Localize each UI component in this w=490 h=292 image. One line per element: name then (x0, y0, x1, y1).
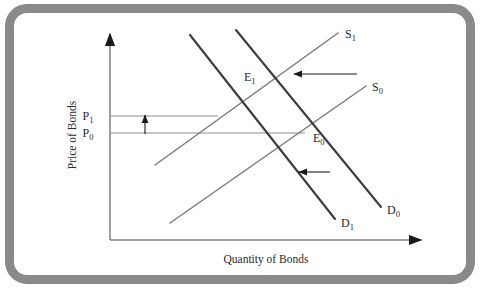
equilibrium-label-e1: E1 (244, 70, 256, 86)
axis-titles-group: Quantity of Bonds Price of Bonds (66, 100, 309, 266)
equilibrium-label-e0: E0 (313, 131, 325, 147)
demand-curves-group (190, 30, 381, 219)
x-axis-label: Quantity of Bonds (224, 253, 309, 266)
price-tick-labels-group: P1 P0 (83, 109, 94, 142)
tick-label-p1: P1 (83, 109, 94, 125)
price-level-lines-group (110, 116, 305, 133)
supply-curve-s0[interactable] (170, 86, 366, 223)
curve-label-s0: S0 (372, 80, 383, 96)
figure-root: P1 P0 E1 E0 S1 S0 D1 (0, 0, 490, 292)
bond-supply-demand-chart: P1 P0 E1 E0 S1 S0 D1 (0, 0, 490, 292)
y-axis-label: Price of Bonds (66, 100, 78, 169)
curve-labels-group: S1 S0 D1 D0 (341, 27, 400, 232)
equilibrium-labels-group: E1 E0 (244, 70, 325, 147)
curve-label-s1: S1 (345, 27, 356, 43)
supply-curve-s1[interactable] (155, 33, 338, 165)
demand-curve-d0[interactable] (236, 30, 381, 207)
tick-label-p0: P0 (83, 126, 94, 142)
curve-label-d1: D1 (341, 216, 354, 232)
shift-arrows-group (145, 74, 357, 172)
curve-label-d0: D0 (387, 203, 400, 219)
